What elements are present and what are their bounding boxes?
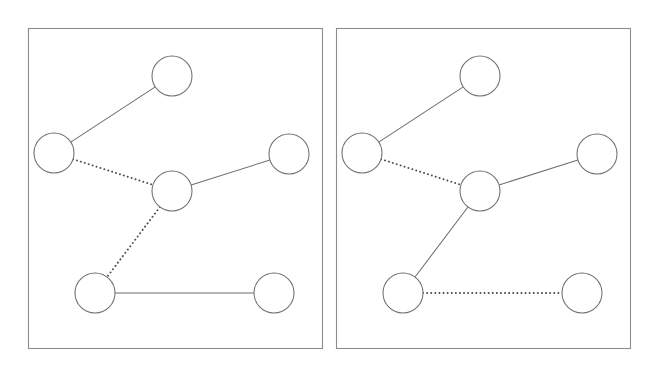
figure-root <box>0 0 653 374</box>
graph-node <box>269 134 309 174</box>
graph-node <box>254 273 294 313</box>
right-panel <box>337 29 631 349</box>
graph-node <box>460 56 500 96</box>
left-panel <box>29 29 323 349</box>
graph-node <box>152 171 192 211</box>
graph-node <box>152 56 192 96</box>
graph-node <box>562 273 602 313</box>
graph-node <box>577 134 617 174</box>
graph-figure-canvas <box>0 0 653 374</box>
panels-layer <box>29 29 631 349</box>
graph-node <box>383 273 423 313</box>
graph-node <box>75 273 115 313</box>
graph-node <box>342 133 382 173</box>
graph-node <box>460 171 500 211</box>
graph-node <box>34 133 74 173</box>
